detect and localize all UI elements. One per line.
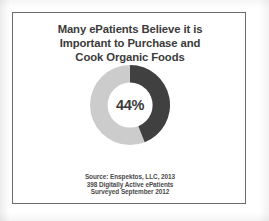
center-value-label: 44% [116, 98, 144, 113]
slide-frame: Many ePatients Believe it is Important t… [12, 12, 246, 204]
title-line-1: Many ePatients Believe it is [27, 22, 233, 36]
slide-canvas: Many ePatients Believe it is Important t… [0, 0, 269, 221]
donut-chart: 44% [89, 55, 171, 155]
chart-area: 44% [13, 55, 247, 160]
title-line-2: Important to Purchase and [27, 36, 233, 50]
source-note: Source: Enspektos, LLC, 2013 398 Digital… [27, 173, 233, 196]
donut-center: 44% [108, 83, 153, 128]
source-line-2: 398 Digitally Active ePatients [27, 181, 233, 189]
source-line-1: Source: Enspektos, LLC, 2013 [27, 173, 233, 181]
source-line-3: Surveyed September 2012 [27, 188, 233, 196]
